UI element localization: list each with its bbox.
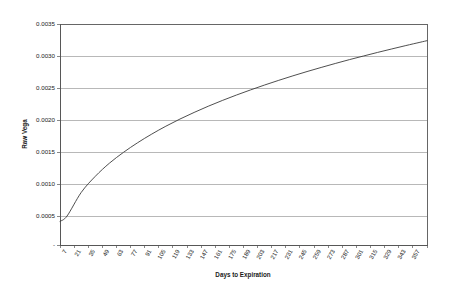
x-tick-label: 175 (227, 248, 238, 260)
y-tick-label: - (53, 241, 55, 248)
x-tick-label: 105 (157, 248, 168, 260)
x-tick-label: 7 (61, 248, 68, 254)
y-axis-tick-labels: 0.00350.00300.00250.00200.00150.00100.00… (36, 20, 55, 248)
x-tick-label: 217 (269, 248, 280, 260)
x-tick-label: 35 (88, 248, 97, 257)
x-tick-label: 231 (284, 248, 295, 260)
chart-container: 0.00350.00300.00250.00200.00150.00100.00… (0, 0, 449, 292)
x-tick-label: 343 (396, 248, 407, 260)
y-tick-label: 0.0005 (36, 212, 55, 219)
x-tick-label: 91 (144, 248, 153, 257)
x-tick-label: 21 (73, 248, 82, 257)
x-tick-label: 49 (102, 248, 111, 257)
x-tick-label: 259 (312, 248, 323, 260)
x-tick-label: 357 (411, 248, 422, 260)
x-tick-label: 63 (116, 248, 125, 257)
x-tick-label: 245 (298, 248, 309, 260)
x-tick-label: 147 (199, 248, 210, 260)
x-tick-label: 315 (368, 248, 379, 260)
x-axis-tick-labels: 7213549637791105119133147161175189203217… (61, 248, 421, 260)
plot-area-border (60, 24, 427, 245)
x-tick-label: 203 (255, 248, 266, 260)
x-tick-label: 119 (171, 248, 181, 260)
x-tick-label: 77 (130, 248, 139, 257)
y-tick-label: 0.0020 (36, 116, 55, 123)
x-tick-label: 133 (185, 248, 196, 260)
y-tick-label: 0.0030 (36, 52, 55, 59)
x-tick-label: 189 (241, 248, 252, 260)
y-tick-label: 0.0025 (36, 84, 55, 91)
x-tick-label: 273 (326, 248, 337, 260)
raw-vega-line-chart: 0.00350.00300.00250.00200.00150.00100.00… (0, 0, 449, 292)
gridlines (60, 56, 427, 216)
x-axis-title: Days to Expiration (215, 271, 270, 279)
y-tick-label: 0.0010 (36, 180, 55, 187)
x-tick-label: 329 (382, 248, 393, 260)
x-tick-label: 301 (354, 248, 365, 260)
y-tick-label: 0.0035 (36, 20, 55, 27)
y-tick-label: 0.0015 (36, 148, 55, 155)
x-tick-label: 287 (340, 248, 351, 260)
raw-vega-curve (60, 41, 427, 222)
x-tick-label: 161 (213, 248, 224, 260)
y-axis-title: Raw Vega (21, 119, 29, 149)
